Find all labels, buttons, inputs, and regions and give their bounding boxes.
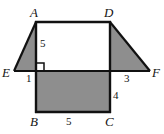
vertex-label-B: B [30,115,38,128]
dimension-label-side-4: 4 [113,90,119,101]
figure-canvas [0,0,164,134]
dimension-label-height-5: 5 [40,38,46,49]
vertex-label-A: A [30,6,38,19]
vertex-label-E: E [2,66,10,79]
vertex-label-F: F [152,66,160,79]
upper-rectangle-ABDC [36,22,110,71]
dimension-label-width-5: 5 [66,116,72,127]
dimension-label-base-1: 1 [26,73,32,84]
vertex-label-C: C [105,115,114,128]
dimension-label-base-3: 3 [124,73,130,84]
geometry-figure: A D E F B C 5 1 3 4 5 [0,0,164,134]
vertex-label-D: D [104,6,113,19]
lower-rectangle-BC [36,71,110,112]
